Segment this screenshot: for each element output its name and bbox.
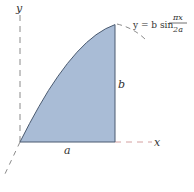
height-label-b: b bbox=[118, 78, 125, 91]
diagram-svg: y x a b y = b sin πx 2a bbox=[0, 0, 194, 192]
width-label-a: a bbox=[64, 144, 71, 157]
x-axis-label: x bbox=[154, 136, 161, 149]
diagram-canvas: y x a b y = b sin πx 2a bbox=[0, 0, 194, 192]
curve-equation-denominator: 2a bbox=[172, 25, 183, 34]
shaded-region bbox=[20, 25, 115, 142]
curve-equation-numerator: πx bbox=[172, 13, 183, 22]
y-axis-label: y bbox=[15, 2, 23, 15]
z-axis bbox=[4, 142, 20, 176]
curve-equation-lhs: y = b sin bbox=[132, 20, 173, 30]
